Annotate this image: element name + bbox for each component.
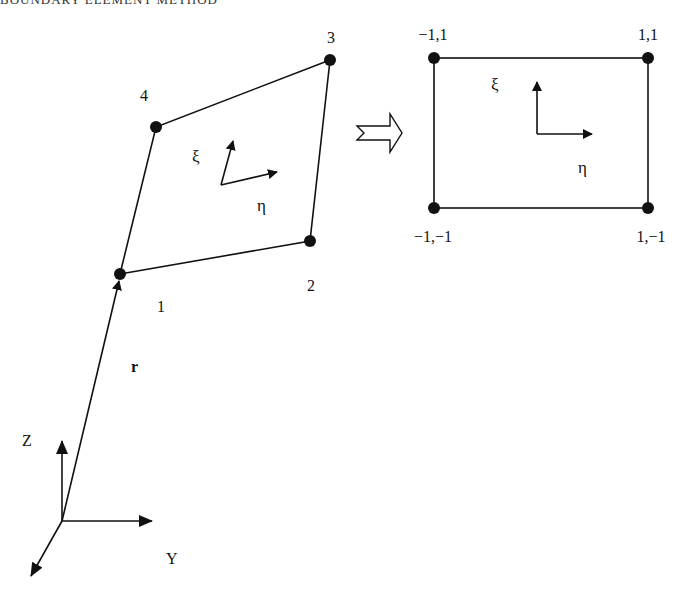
position-vector-label: r — [131, 358, 138, 375]
ref-eta-label: η — [578, 158, 587, 177]
square-outline — [434, 58, 648, 208]
corner-label-top-right: 1,1 — [638, 26, 658, 43]
corner-label-bottom-right: 1,−1 — [636, 228, 665, 245]
xi-axis-arrow — [221, 141, 233, 185]
corner-node-bottom-right — [642, 202, 654, 214]
quadrilateral-element: 1 2 3 4 ξ η — [114, 29, 336, 315]
position-vector: r — [62, 281, 138, 521]
node-4-label: 4 — [140, 87, 148, 104]
corner-node-bottom-left — [428, 202, 440, 214]
eta-label: η — [257, 196, 266, 215]
node-2 — [304, 235, 316, 247]
corner-node-top-right — [642, 52, 654, 64]
reference-square: −1,1 1,1 −1,−1 1,−1 ξ η — [414, 26, 666, 245]
x-axis-arrow — [31, 521, 62, 576]
node-4 — [150, 121, 162, 133]
corner-node-top-left — [428, 52, 440, 64]
mapping-arrow-icon — [357, 114, 402, 152]
corner-label-bottom-left: −1,−1 — [414, 228, 452, 245]
node-2-label: 2 — [307, 277, 315, 294]
element-outline — [120, 60, 330, 274]
node-1-label: 1 — [157, 298, 165, 315]
node-1 — [114, 268, 126, 280]
node-3 — [324, 54, 336, 66]
corner-label-top-left: −1,1 — [418, 26, 447, 43]
xi-label: ξ — [192, 147, 200, 166]
y-axis-label: Y — [166, 550, 178, 567]
isoparametric-mapping-diagram: Z Y r 1 2 3 4 ξ η −1,1 1,1 −1,−1 1,−1 — [0, 0, 679, 591]
ref-xi-label: ξ — [491, 75, 499, 94]
eta-axis-arrow — [221, 172, 277, 185]
global-axes: Z Y — [22, 432, 178, 576]
position-vector-arrow — [62, 281, 119, 521]
z-axis-label: Z — [22, 432, 32, 449]
node-3-label: 3 — [327, 29, 335, 46]
